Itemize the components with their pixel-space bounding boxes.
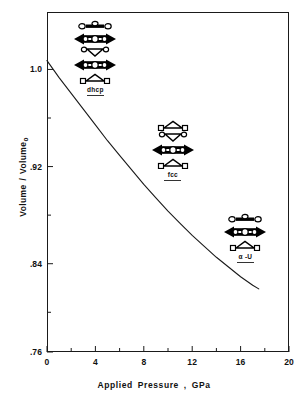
structure-layer-down-triangle — [72, 46, 118, 58]
figure-container: 1.0 .92 .84 .76 0 4 8 12 16 20 Applied P… — [0, 0, 308, 404]
structure-layer-wide-row — [72, 20, 118, 32]
x-tick-label-5: 16 — [236, 357, 246, 367]
structure-layer-double-arrow — [72, 32, 118, 46]
structure-annotation-fcc: fcc — [150, 119, 196, 181]
structure-layer-down-triangle — [150, 131, 196, 143]
y-axis-title-text: Volume / Volume — [18, 142, 28, 217]
structure-label: α -U — [239, 254, 253, 261]
structure-label: fcc — [168, 172, 178, 179]
x-axis-title: Applied Pressure , GPa — [0, 380, 308, 390]
x-tick-label-2: 4 — [93, 357, 98, 367]
x-tick-label-1: 0 — [45, 357, 50, 367]
structure-layer-up-triangle — [222, 239, 268, 251]
y-tick-label-4: .76 — [18, 347, 42, 357]
structure-annotation-dhcp: dhcp — [72, 20, 118, 96]
structure-layer-double-arrow — [72, 58, 118, 72]
structure-stack — [222, 213, 268, 251]
y-axis-title: Volume / Volumeo — [18, 107, 28, 247]
x-tick-label-3: 8 — [141, 357, 146, 367]
y-tick-label-3: .84 — [18, 259, 42, 269]
structure-annotation-alpha-u: α -U — [222, 213, 268, 263]
structure-layer-double-arrow — [150, 143, 196, 157]
structure-label-underline — [87, 95, 104, 96]
structure-layer-up-triangle — [150, 157, 196, 169]
structure-stack — [150, 119, 196, 169]
x-tick-label-6: 20 — [284, 357, 294, 367]
structure-label-underline — [164, 180, 181, 181]
y-axis-title-subscript: o — [22, 137, 29, 141]
structure-layer-wide-row — [222, 213, 268, 225]
y-tick-label-1: 1.0 — [18, 64, 42, 74]
structure-layer-up-triangle — [150, 119, 196, 131]
structure-label: dhcp — [87, 87, 104, 94]
x-tick-label-4: 12 — [187, 357, 197, 367]
structure-stack — [72, 20, 118, 84]
structure-layer-up-triangle — [72, 72, 118, 84]
structure-label-underline — [237, 262, 254, 263]
structure-layer-double-arrow — [222, 225, 268, 239]
